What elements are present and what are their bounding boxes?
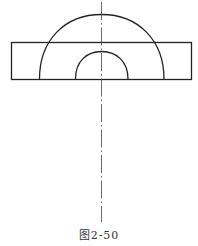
technical-drawing xyxy=(0,0,198,246)
figure-caption: 图2-50 xyxy=(0,226,198,242)
